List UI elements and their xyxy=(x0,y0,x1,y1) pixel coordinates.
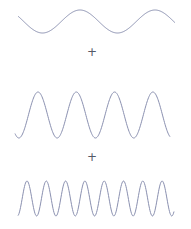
plus-operator-2: + xyxy=(86,151,98,163)
plus-operator-1: + xyxy=(86,46,98,58)
mid-frequency-wave xyxy=(15,92,170,138)
waves-canvas xyxy=(0,0,191,229)
wave-sum-diagram: + + xyxy=(0,0,191,229)
low-frequency-wave xyxy=(18,10,175,33)
high-frequency-wave xyxy=(18,181,174,216)
